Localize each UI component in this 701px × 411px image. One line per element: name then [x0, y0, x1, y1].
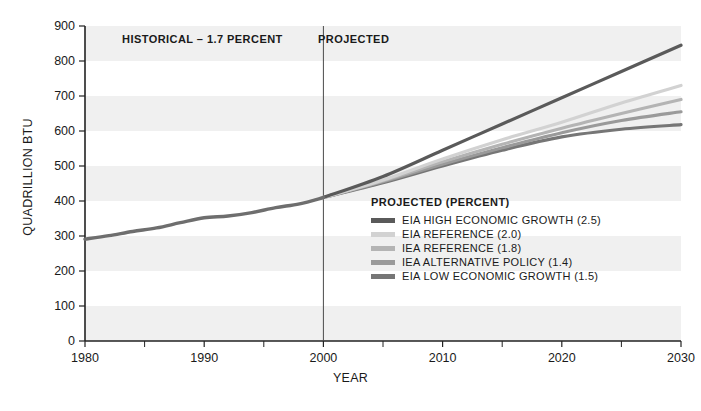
x-tick-label: 2010 [413, 352, 473, 364]
x-tick-label: 2030 [651, 352, 701, 364]
legend-label: EIA REFERENCE (2.0) [402, 227, 521, 241]
projected-period-label: PROJECTED [318, 33, 389, 45]
x-tick-label: 2000 [293, 352, 353, 364]
legend-item: IEA ALTERNATIVE POLICY (1.4) [371, 255, 601, 269]
chart-legend: PROJECTED (PERCENT) EIA HIGH ECONOMIC GR… [371, 196, 601, 283]
legend-item: IEA REFERENCE (1.8) [371, 241, 601, 255]
legend-swatch [371, 218, 395, 223]
legend-title: PROJECTED (PERCENT) [371, 196, 601, 208]
legend-item: EIA HIGH ECONOMIC GROWTH (2.5) [371, 213, 601, 227]
historical-period-label: HISTORICAL – 1.7 PERCENT [122, 33, 283, 45]
x-tick-label: 1980 [55, 352, 115, 364]
legend-entries: EIA HIGH ECONOMIC GROWTH (2.5)EIA REFERE… [371, 213, 601, 283]
x-tick-label: 2020 [532, 352, 592, 364]
legend-swatch [371, 246, 395, 251]
background-band [85, 306, 681, 341]
y-tick-label: 0 [31, 335, 75, 347]
legend-label: IEA ALTERNATIVE POLICY (1.4) [402, 255, 572, 269]
y-tick-label: 900 [31, 20, 75, 32]
y-tick-label: 700 [31, 90, 75, 102]
y-tick-label: 500 [31, 160, 75, 172]
legend-label: EIA LOW ECONOMIC GROWTH (1.5) [402, 269, 598, 283]
x-axis-minor-ticks [145, 341, 622, 347]
y-tick-label: 600 [31, 125, 75, 137]
y-tick-label: 400 [31, 195, 75, 207]
legend-swatch [371, 274, 395, 279]
legend-item: EIA REFERENCE (2.0) [371, 227, 601, 241]
y-tick-label: 200 [31, 265, 75, 277]
legend-item: EIA LOW ECONOMIC GROWTH (1.5) [371, 269, 601, 283]
historical-line [85, 198, 323, 240]
legend-swatch [371, 232, 395, 237]
y-tick-label: 300 [31, 230, 75, 242]
legend-label: IEA REFERENCE (1.8) [402, 241, 521, 255]
legend-swatch [371, 260, 395, 265]
energy-consumption-line-chart: QUADRILLION BTU YEAR 0100200300400500600… [0, 0, 701, 411]
x-axis-title: YEAR [0, 371, 701, 385]
legend-label: EIA HIGH ECONOMIC GROWTH (2.5) [402, 213, 601, 227]
y-tick-label: 800 [31, 55, 75, 67]
x-tick-label: 1990 [174, 352, 234, 364]
y-axis-title: QUADRILLION BTU [21, 77, 35, 277]
y-tick-label: 100 [31, 300, 75, 312]
